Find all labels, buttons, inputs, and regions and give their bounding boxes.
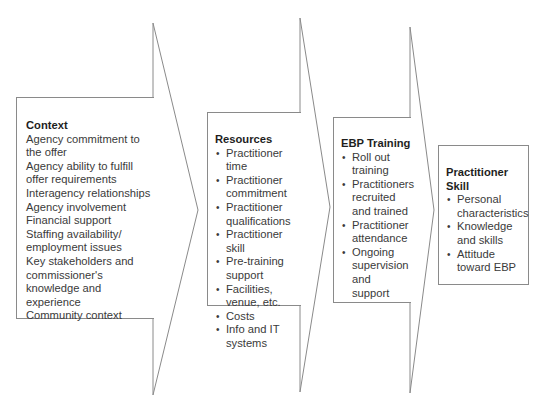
list-item: Attitude toward EBP <box>446 248 528 275</box>
context-box: Context Agency commitment to the offer A… <box>16 97 154 319</box>
list-item: Practitioner time <box>215 147 301 174</box>
resources-box: Resources Practitioner time Practitioner… <box>207 112 301 306</box>
list-item: Agency commitment to the offer <box>26 133 154 160</box>
context-list: Agency commitment to the offer Agency ab… <box>26 133 154 323</box>
list-item: Community context <box>26 309 154 323</box>
list-item: Staffing availability/ employment issues <box>26 228 154 255</box>
list-item: Financial support <box>26 214 154 228</box>
list-item: Info and IT systems <box>215 323 301 350</box>
list-item: Key stakeholders and commissioner's know… <box>26 255 154 309</box>
context-heading: Context <box>26 119 154 133</box>
list-item: Roll out training <box>341 151 411 178</box>
ebp-training-arrow-outline <box>410 27 434 393</box>
list-item: Costs <box>215 310 301 324</box>
list-item: Agency involvement <box>26 201 154 215</box>
practitioner-skill-list: Personal characteristics Knowledge and s… <box>446 193 528 275</box>
ebp-training-list: Roll out training Practitioners recruite… <box>341 151 411 301</box>
list-item: Pre-training support <box>215 255 301 282</box>
context-arrow-outline <box>153 23 198 395</box>
list-item: Practitioner skill <box>215 228 301 255</box>
ebp-training-box: EBP Training Roll out training Practitio… <box>333 117 411 303</box>
list-item: Ongoing supervision and support <box>341 246 411 300</box>
practitioner-skill-box: Practitioner Skill Personal characterist… <box>438 145 529 285</box>
resources-list: Practitioner time Practitioner commitmen… <box>215 147 301 351</box>
resources-arrow-outline <box>300 18 330 392</box>
list-item: Facilities, venue, etc. <box>215 283 301 310</box>
ebp-training-heading: EBP Training <box>341 137 411 151</box>
list-item: Practitioners recruited and trained <box>341 178 411 219</box>
list-item: Interagency relationships <box>26 187 154 201</box>
list-item: Practitioner attendance <box>341 219 411 246</box>
practitioner-skill-heading: Practitioner Skill <box>446 166 528 193</box>
list-item: Practitioner commitment <box>215 174 301 201</box>
list-item: Personal characteristics <box>446 193 528 220</box>
resources-heading: Resources <box>215 133 301 147</box>
list-item: Practitioner qualifications <box>215 201 301 228</box>
list-item: Agency ability to fulfill offer requirem… <box>26 160 154 187</box>
list-item: Knowledge and skills <box>446 220 528 247</box>
